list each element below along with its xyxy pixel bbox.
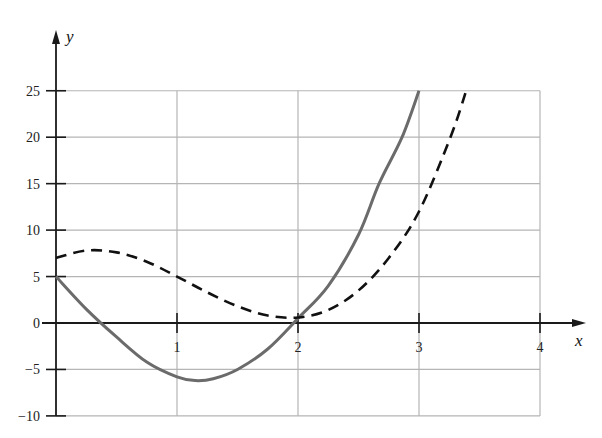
- y-axis-arrow-icon: [52, 30, 60, 44]
- solid-curve: [56, 91, 419, 381]
- y-axis-label: y: [64, 27, 74, 46]
- x-tick-label: 1: [174, 340, 181, 355]
- y-tick-label: 20: [26, 130, 40, 145]
- y-tick-label: 10: [26, 223, 40, 238]
- chart: −10−505101520251234 x y: [0, 0, 602, 438]
- tick-labels: −10−505101520251234: [18, 84, 543, 424]
- y-tick-label: −5: [25, 362, 40, 377]
- dashed-curve: [56, 91, 466, 318]
- y-tick-label: 15: [26, 177, 40, 192]
- grid-lines: [56, 91, 540, 416]
- x-tick-label: 4: [537, 340, 544, 355]
- axes: [42, 30, 586, 416]
- y-tick-label: −10: [18, 409, 40, 424]
- x-axis-label: x: [574, 331, 583, 350]
- x-tick-label: 3: [416, 340, 423, 355]
- x-tick-label: 2: [295, 340, 302, 355]
- y-tick-label: 5: [33, 270, 40, 285]
- y-tick-label: 25: [26, 84, 40, 99]
- x-axis-arrow-icon: [572, 319, 586, 327]
- y-tick-label: 0: [33, 316, 40, 331]
- data-series: [56, 91, 466, 381]
